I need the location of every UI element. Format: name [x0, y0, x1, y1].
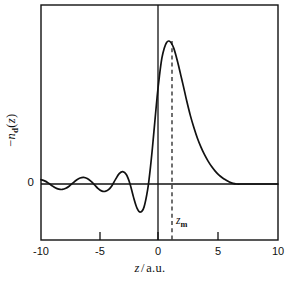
y-tick-label-0: 0: [18, 176, 34, 188]
x-tick-label--5: -5: [80, 245, 120, 257]
y-axis-label: −nd(z): [4, 100, 21, 160]
x-axis-label: z / a.u.: [0, 261, 288, 276]
x-tick-label-10: 10: [258, 245, 288, 257]
chart-figure: −nd(z) z / a.u. 0 zm -10 -5 0 5 10: [0, 0, 288, 282]
plot-area: [0, 0, 288, 282]
zm-annotation-label: zm: [176, 214, 187, 229]
x-tick-label-5: 5: [198, 245, 238, 257]
plot-frame: [41, 5, 278, 240]
x-tick-label-0: 0: [138, 245, 178, 257]
x-tick-label--10: -10: [21, 245, 61, 257]
